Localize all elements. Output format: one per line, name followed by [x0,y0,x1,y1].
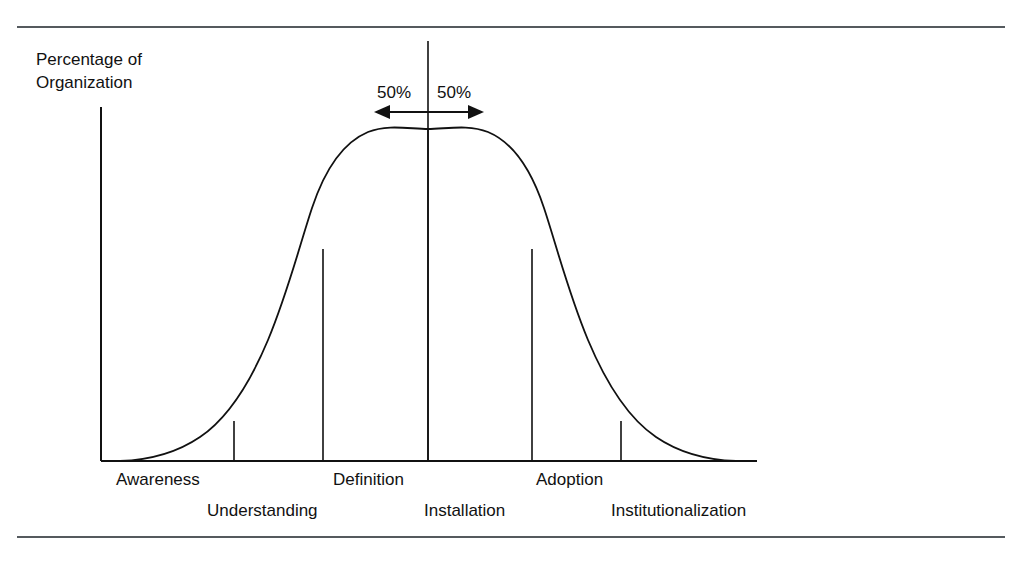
stage-label-adoption: Adoption [536,469,603,491]
stage-label-understanding: Understanding [207,500,318,522]
arrow-head-right [468,105,484,119]
stage-label-awareness: Awareness [116,469,200,491]
stage-label-institutionalization: Institutionalization [611,500,746,522]
stage-label-installation: Installation [424,500,505,522]
stage-label-definition: Definition [333,469,404,491]
arrow-head-left [374,105,390,119]
figure-container: Percentage of Organization 50% 50% [0,0,1021,562]
